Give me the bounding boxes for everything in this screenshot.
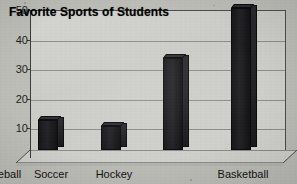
bar-hockey-top <box>101 122 124 126</box>
bar-basketball-front <box>231 8 251 150</box>
x-axis-label-soccer: Soccer <box>34 168 68 180</box>
bar-basketball-top <box>231 4 254 8</box>
y-axis-label-40: 40 <box>2 34 28 46</box>
scan-speck <box>60 176 63 177</box>
bar-basketball[interactable] <box>231 0 257 163</box>
y-axis-label-10: 10 <box>2 122 28 134</box>
scan-speck <box>24 2 26 4</box>
bar-baseball-front <box>163 58 183 150</box>
chart-title: Favorite Sports of Students <box>9 5 169 19</box>
x-axis-label-baseball: Baseball <box>0 168 21 180</box>
bar-hockey-front <box>101 126 121 150</box>
bar-baseball-side <box>183 55 189 147</box>
y-axis-labels: 50 40 30 20 10 <box>0 0 28 184</box>
bar-soccer[interactable] <box>38 0 64 163</box>
bar-soccer-front <box>38 120 58 150</box>
bar-soccer-top <box>38 116 61 120</box>
scan-speck <box>213 5 215 6</box>
bar-soccer-side <box>58 117 64 147</box>
scan-speck <box>190 179 192 181</box>
chart-screenshot: Favorite Sports of Students 50 40 30 20 … <box>0 0 297 184</box>
bar-baseball[interactable] <box>163 0 189 163</box>
bar-baseball-top <box>163 54 186 58</box>
bar-hockey-side <box>121 123 127 147</box>
y-axis-label-30: 30 <box>2 63 28 75</box>
y-axis-line <box>30 10 31 158</box>
bar-basketball-side <box>251 5 257 147</box>
y-axis-label-20: 20 <box>2 93 28 105</box>
x-axis-label-hockey: Hockey <box>96 168 133 180</box>
bar-hockey[interactable] <box>101 0 127 163</box>
x-axis-label-basketball: Basketball <box>218 168 269 180</box>
